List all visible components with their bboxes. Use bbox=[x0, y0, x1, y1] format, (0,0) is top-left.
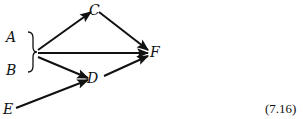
causal-diagram: A B C D E F (7.16) bbox=[0, 0, 303, 119]
edge-c-to-f bbox=[99, 12, 148, 50]
node-d: D bbox=[86, 70, 98, 86]
node-e: E bbox=[2, 101, 13, 117]
node-f: F bbox=[149, 44, 161, 60]
node-c: C bbox=[89, 2, 100, 18]
edge-d-to-f bbox=[104, 56, 148, 76]
brace-group-ab bbox=[28, 32, 37, 72]
equation-number: (7.16) bbox=[265, 101, 296, 116]
node-b: B bbox=[5, 62, 16, 78]
node-a: A bbox=[4, 29, 16, 45]
edge-e-to-d bbox=[16, 80, 88, 108]
edge-ab-to-c bbox=[38, 12, 91, 50]
edge-ab-to-d bbox=[38, 57, 88, 78]
